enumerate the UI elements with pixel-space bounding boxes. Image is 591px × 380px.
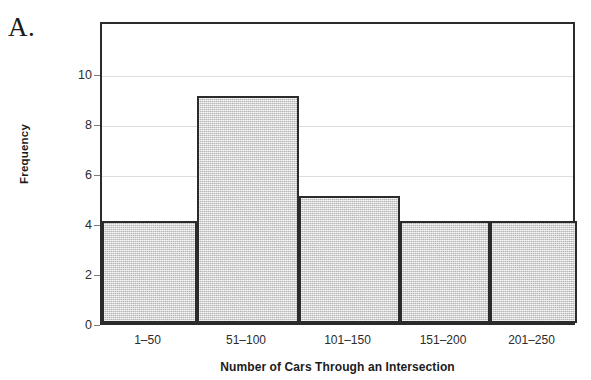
y-tick-mark — [94, 75, 100, 76]
plot-area — [100, 22, 575, 325]
y-tick-label: 0 — [64, 319, 92, 332]
x-tick-label: 101–150 — [297, 334, 398, 346]
y-tick-label: 8 — [64, 119, 92, 132]
x-tick-label: 1–50 — [100, 334, 195, 346]
y-tick-label: 2 — [64, 269, 92, 282]
x-axis-label: Number of Cars Through an Intersection — [100, 360, 575, 374]
histogram-bar — [400, 221, 490, 323]
y-tick-mark — [94, 225, 100, 226]
histogram-bar — [197, 96, 299, 323]
histogram-bar — [490, 221, 577, 323]
y-tick-mark — [94, 325, 100, 326]
y-tick-mark — [94, 175, 100, 176]
bar-series — [102, 24, 573, 323]
x-tick-label: 151–200 — [398, 334, 488, 346]
panel-letter: A. — [8, 14, 35, 41]
x-axis-tick-labels: 1–5051–100101–150151–200201–250 — [100, 334, 575, 352]
x-tick-label: 201–250 — [488, 334, 575, 346]
histogram-figure: A. Frequency 0246810 1–5051–100101–15015… — [0, 0, 591, 380]
y-axis-tick-labels: 0246810 — [60, 0, 92, 380]
histogram-bar — [102, 221, 197, 323]
x-tick-label: 51–100 — [195, 334, 297, 346]
histogram-bar — [299, 196, 400, 323]
y-axis-label: Frequency — [18, 94, 30, 214]
y-tick-label: 6 — [64, 169, 92, 182]
y-tick-label: 10 — [64, 69, 92, 82]
y-tick-mark — [94, 125, 100, 126]
y-tick-label: 4 — [64, 219, 92, 232]
y-tick-mark — [94, 275, 100, 276]
